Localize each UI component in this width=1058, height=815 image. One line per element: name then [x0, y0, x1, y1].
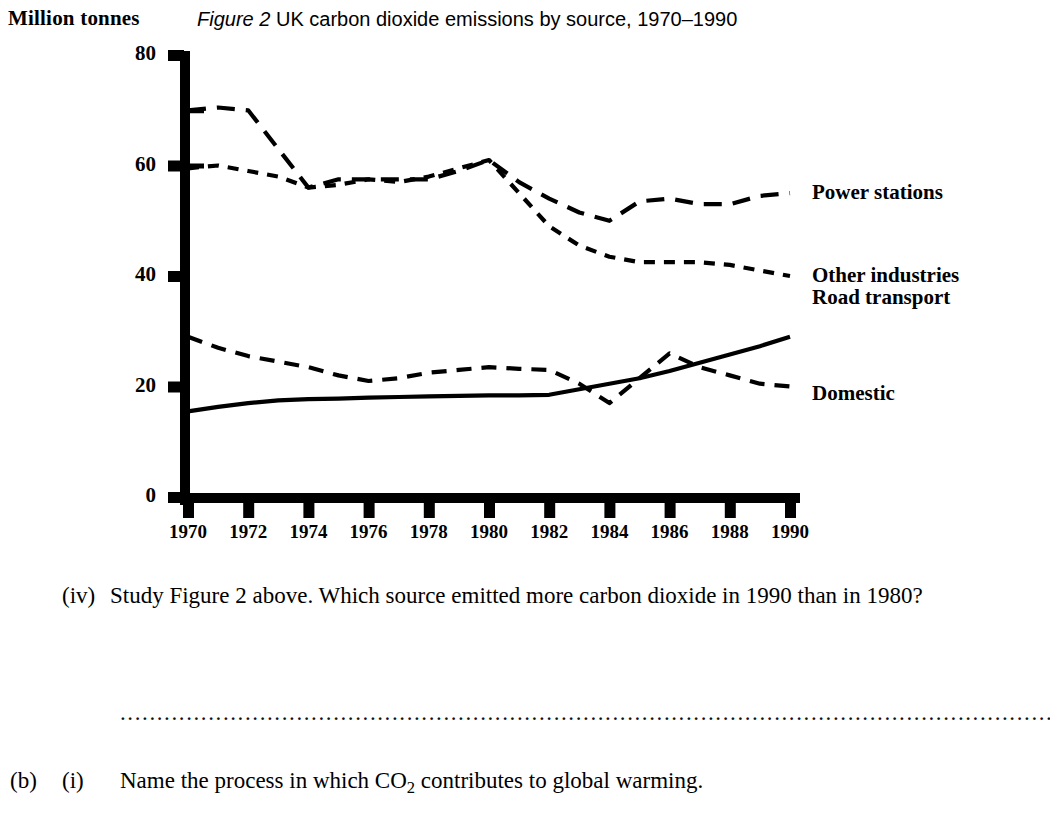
x-axis-tick [544, 501, 555, 518]
y-axis-tick [168, 271, 184, 282]
x-axis-tick [484, 501, 495, 518]
x-axis-tick [243, 501, 254, 518]
y-axis-tick [168, 50, 184, 61]
y-tick-label: 60 [96, 152, 156, 177]
answer-dotted-line[interactable]: ........................................… [120, 700, 1050, 726]
question-iv: (iv) Study Figure 2 above. Which source … [62, 580, 1037, 611]
x-axis-tick [785, 501, 796, 518]
question-iv-text: Study Figure 2 above. Which source emitt… [110, 580, 1037, 611]
figure-2-chart: Million tonnes Figure 2 UK carbon dioxid… [0, 0, 1058, 560]
y-tick-label: 40 [96, 262, 156, 287]
y-axis-tick [168, 492, 184, 503]
x-axis-tick [364, 501, 375, 518]
series-line-road-transport [188, 337, 790, 412]
x-axis-tick [604, 501, 615, 518]
series-line-power-stations [188, 108, 790, 221]
x-tick-label: 1990 [755, 521, 825, 543]
y-axis-tick [168, 382, 184, 393]
question-b-i-text: Name the process in which CO2 contribute… [120, 765, 1030, 803]
y-tick-label: 0 [96, 483, 156, 508]
series-label-power-stations: Power stations [812, 180, 943, 205]
y-tick-label: 20 [96, 373, 156, 398]
chart-axes [168, 50, 800, 518]
chart-series-lines [188, 108, 790, 412]
question-iv-marker: (iv) [62, 580, 95, 611]
x-axis-tick [725, 501, 736, 518]
x-axis-tick [303, 501, 314, 518]
series-line-other-industries [188, 160, 790, 276]
co2-subscript: 2 [407, 778, 415, 797]
x-axis-tick [665, 501, 676, 518]
x-axis-tick [183, 501, 194, 518]
question-b-i-text-after: contributes to global warming. [415, 768, 703, 793]
question-i-marker: (i) [62, 765, 84, 796]
question-b-i-text-before: Name the process in which CO [120, 768, 407, 793]
series-label-road-transport: Road transport [812, 285, 950, 310]
series-line-domestic [188, 337, 790, 403]
question-b-i: (b) (i) Name the process in which CO2 co… [10, 765, 1030, 803]
x-axis-tick [424, 501, 435, 518]
series-label-domestic: Domestic [812, 381, 895, 406]
y-tick-label: 80 [96, 41, 156, 66]
question-b-marker: (b) [10, 765, 37, 796]
y-axis-tick [168, 161, 184, 172]
